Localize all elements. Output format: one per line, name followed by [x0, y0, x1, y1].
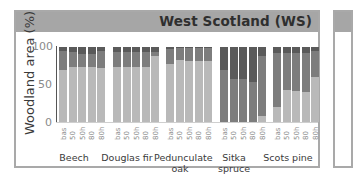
- bar-segment-upper: [166, 47, 174, 49]
- bar-segment-middle: [151, 52, 159, 57]
- x-tick-label: 50h: [293, 127, 301, 140]
- bar-segment-middle: [311, 51, 319, 77]
- bar-segment-upper: [258, 47, 266, 56]
- x-tick-label: bas: [274, 128, 282, 140]
- x-tick-label: 50h: [240, 127, 248, 140]
- bar-segment-upper: [59, 47, 67, 51]
- bar-segment-upper: [142, 47, 150, 52]
- x-tick-label: 50h: [186, 127, 194, 140]
- x-tick-label: 80h: [205, 127, 213, 140]
- bar-segment-lower: [69, 67, 77, 123]
- x-axis-line: [56, 122, 318, 123]
- bar-segment-lower: [151, 56, 159, 122]
- y-tick-label: 100: [32, 40, 52, 53]
- stacked-bar: [142, 47, 150, 122]
- stacked-bar: [132, 47, 140, 122]
- x-tick-label: 50: [123, 131, 131, 140]
- bar-segment-upper: [69, 47, 77, 52]
- panel-title: West Scotland (WS): [159, 13, 312, 29]
- bar-segment-upper: [176, 47, 184, 48]
- x-tick-label: 50: [69, 131, 77, 140]
- x-tick-label: 50h: [133, 127, 141, 140]
- stacked-bar: [195, 47, 203, 122]
- stacked-bar: [176, 47, 184, 122]
- bar-segment-middle: [302, 53, 310, 92]
- group-label: Scots pine: [262, 152, 314, 163]
- bar-segment-upper: [97, 47, 105, 51]
- bar-segment-lower: [302, 92, 310, 122]
- bar-segment-lower: [176, 60, 184, 122]
- bar-segment-middle: [59, 51, 67, 70]
- bar-segment-lower: [88, 67, 96, 123]
- bar-segment-middle: [176, 48, 184, 60]
- x-tick-label: 50h: [79, 127, 87, 140]
- stacked-bar: [123, 47, 131, 122]
- y-tick-label: 0: [32, 116, 52, 129]
- bar-segment-upper: [204, 47, 212, 48]
- x-tick-label: 50: [176, 131, 184, 140]
- bar-segment-middle: [69, 52, 77, 66]
- group-label: Sitka spruce: [208, 152, 260, 174]
- bar-segment-lower: [258, 116, 266, 122]
- stacked-bar: [220, 47, 228, 122]
- bar-segment-upper: [249, 47, 257, 82]
- x-tick-label: 50: [283, 131, 291, 140]
- stacked-bar: [166, 47, 174, 122]
- bar-segment-lower: [113, 67, 121, 123]
- bar-segment-middle: [220, 70, 228, 123]
- bar-segment-lower: [97, 68, 105, 122]
- panel-header: West Scotland (WS): [16, 12, 318, 32]
- bar-segment-upper: [302, 47, 310, 53]
- bar-segment-middle: [132, 52, 140, 67]
- x-tick-label: 80h: [98, 127, 106, 140]
- bar-segment-middle: [292, 53, 300, 91]
- bar-segment-middle: [88, 54, 96, 67]
- bar-segment-upper: [220, 47, 228, 70]
- bar-segment-upper: [311, 47, 319, 51]
- x-tick-label: 80h: [259, 127, 267, 140]
- x-tick-label: bas: [114, 128, 122, 140]
- bar-segment-middle: [142, 52, 150, 67]
- bar-segment-middle: [185, 48, 193, 61]
- bar-segment-upper: [273, 47, 281, 53]
- y-tick-label: 50: [32, 78, 52, 91]
- stacked-bar: [230, 47, 238, 122]
- bar-segment-middle: [166, 49, 174, 64]
- bar-segment-middle: [113, 52, 121, 67]
- bar-segment-upper: [123, 47, 131, 52]
- bar-segment-middle: [273, 53, 281, 107]
- x-tick-label: 80h: [312, 127, 320, 140]
- bar-segment-middle: [97, 51, 105, 68]
- bar-segment-lower: [132, 67, 140, 123]
- bar-segment-middle: [123, 52, 131, 67]
- stacked-bar: [258, 47, 266, 122]
- bar-segment-lower: [292, 91, 300, 123]
- bar-segment-lower: [273, 107, 281, 122]
- x-tick-label: 80h: [152, 127, 160, 140]
- group-label: Beech: [48, 152, 100, 163]
- stacked-bar: [249, 47, 257, 122]
- bar-segment-middle: [195, 48, 203, 62]
- bar-segment-upper: [195, 47, 203, 48]
- x-tick-label: 50: [230, 131, 238, 140]
- x-tick-label: bas: [221, 128, 229, 140]
- stacked-bar: [88, 47, 96, 122]
- bar-segment-upper: [88, 47, 96, 54]
- bar-segment-lower: [78, 67, 86, 123]
- stacked-bar: [302, 47, 310, 122]
- x-tick-label: bas: [60, 128, 68, 140]
- x-tick-label: bas: [167, 128, 175, 140]
- bar-segment-middle: [204, 48, 212, 62]
- bar-segment-upper: [113, 47, 121, 52]
- stacked-bar: [78, 47, 86, 122]
- bar-segment-lower: [142, 67, 150, 123]
- bar-segment-upper: [132, 47, 140, 52]
- y-axis-line: [56, 46, 57, 123]
- bar-segment-lower: [59, 70, 67, 123]
- stacked-bar: [283, 47, 291, 122]
- bar-segment-upper: [239, 47, 247, 79]
- stacked-bar: [292, 47, 300, 122]
- x-tick-label: 80: [249, 131, 257, 140]
- x-tick-label: 80: [142, 131, 150, 140]
- group-label: Pedunculate oak: [154, 152, 206, 174]
